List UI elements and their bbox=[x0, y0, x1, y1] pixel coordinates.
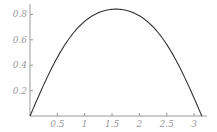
y-tick-label: 0.2 bbox=[13, 86, 28, 96]
x-tick-label: 0.5 bbox=[50, 119, 65, 129]
line-chart: 0.511.522.53 0.20.40.60.8 bbox=[0, 0, 217, 132]
x-axis-ticks: 0.511.522.53 bbox=[50, 113, 197, 129]
x-tick-label: 1 bbox=[82, 119, 88, 129]
x-tick-label: 3 bbox=[191, 119, 197, 129]
y-tick-label: 0.8 bbox=[13, 9, 28, 19]
x-tick-label: 2.5 bbox=[159, 119, 175, 129]
data-curve bbox=[30, 9, 202, 116]
x-tick-label: 1.5 bbox=[105, 119, 120, 129]
y-tick-label: 0.4 bbox=[13, 60, 28, 70]
y-tick-label: 0.6 bbox=[13, 35, 28, 45]
x-tick-label: 2 bbox=[136, 119, 143, 129]
